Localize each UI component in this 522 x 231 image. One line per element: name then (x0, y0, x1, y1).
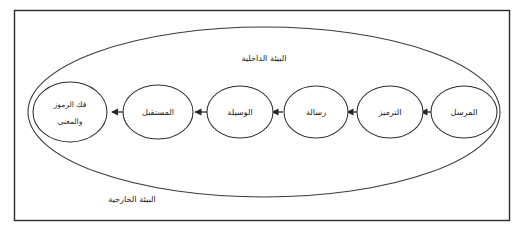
arrow-head-icon (195, 109, 202, 116)
node-encoding-label: الترميز (377, 107, 401, 117)
node-receiver[interactable]: المستقبل (123, 85, 193, 139)
node-message-label: رسالة (306, 107, 326, 117)
node-receiver-label: المستقبل (142, 107, 174, 117)
communication-model-diagram: البيئة الداخلية البيئة الخارجية المرسل (0, 0, 522, 231)
node-medium[interactable]: الوسيلة (207, 86, 273, 138)
node-decoding-ellipse[interactable] (33, 82, 107, 142)
arrow-medium-to-receiver (195, 109, 208, 116)
node-medium-label: الوسيلة (227, 107, 252, 117)
node-message[interactable]: رسالة (284, 86, 348, 138)
node-sender-label: المرسل (450, 107, 477, 117)
arrow-head-icon (111, 109, 118, 116)
node-encoding[interactable]: الترميز (357, 86, 423, 138)
node-decoding-label-line2: والمعنى (58, 117, 83, 126)
figure-container: البيئة الداخلية البيئة الخارجية المرسل (0, 0, 522, 231)
external-environment-label: البيئة الخارجية (108, 194, 156, 204)
internal-environment-label: البيئة الداخلية (241, 53, 286, 63)
node-sender[interactable]: المرسل (431, 86, 497, 138)
node-decoding[interactable]: فك الرموز والمعنى (33, 82, 107, 142)
node-decoding-label-line1: فك الرموز (53, 100, 87, 109)
arrow-receiver-to-decoding (111, 109, 124, 116)
